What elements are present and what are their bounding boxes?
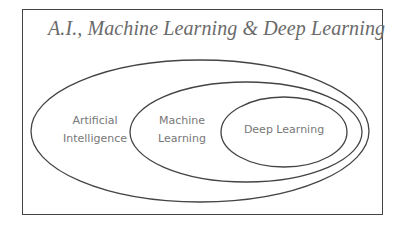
ml-label-line1: Machine [147, 112, 217, 130]
dl-label: Deep Learning [238, 121, 330, 139]
dl-label-text: Deep Learning [244, 123, 324, 136]
ai-label: Artificial Intelligence [55, 112, 135, 148]
ai-label-line2: Intelligence [55, 130, 135, 148]
ai-label-line1: Artificial [55, 112, 135, 130]
ml-label-line2: Learning [147, 130, 217, 148]
ml-label: Machine Learning [147, 112, 217, 148]
